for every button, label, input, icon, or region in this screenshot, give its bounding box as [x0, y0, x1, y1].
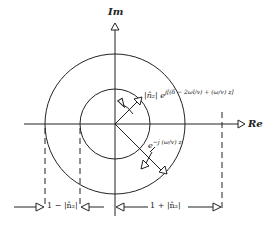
decay-direction [146, 152, 152, 163]
real-axis-label: Re [248, 118, 263, 129]
dim-max-right-arrow-icon [213, 203, 221, 211]
dim-max-left-arrow-icon [116, 203, 124, 211]
dim-min-right-arrow-icon [81, 203, 89, 211]
decay-arrow-icon [141, 160, 149, 169]
phasor-diagram [0, 0, 276, 226]
rotating-phasor-exponent: j[(δ − 2ωl/v) + (ω/v) z] [165, 88, 234, 95]
min-magnitude-label: 1 − |n̂₂| [47, 201, 78, 210]
decaying-phasor-label: e−j (ω/v) z [148, 138, 182, 150]
rotating-phasor-base: |n̂₂| e [144, 91, 165, 100]
dim-min-left-arrow-icon [36, 203, 44, 211]
imaginary-axis-arrow-icon [111, 23, 119, 30]
rotating-phasor-label: |n̂₂| ej[(δ − 2ωl/v) + (ω/v) z] [144, 88, 234, 100]
decaying-phasor-arrow-icon [159, 166, 167, 174]
decaying-phasor-exponent: −j (ω/v) z [153, 138, 182, 145]
rotating-phasor-vector [115, 101, 138, 124]
rotation-arrow-icon [117, 98, 125, 108]
imaginary-axis-label: Im [108, 6, 123, 17]
max-magnitude-label: 1 + |n̂₂| [150, 201, 181, 210]
real-axis-arrow-icon [238, 120, 245, 128]
